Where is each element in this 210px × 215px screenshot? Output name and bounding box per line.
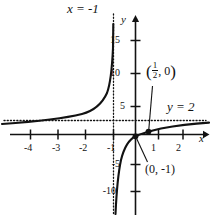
y-axis-arrowhead	[132, 15, 139, 22]
y-tick-label-10: 10	[104, 68, 120, 78]
y-tick-label-5: 5	[109, 101, 125, 111]
y-intercept-callout: (0, -1)	[145, 163, 175, 175]
x-tick-label-minus-3: -3	[52, 143, 60, 153]
x-tick-label-minus-1: -1	[107, 143, 115, 153]
vertical-asymptote-label: x = -1	[67, 2, 99, 15]
leader-line-x-intercept	[149, 86, 153, 130]
y-tick-label-15: 15	[104, 35, 120, 45]
y-tick-label-minus-10: -10	[100, 186, 116, 196]
one-half-fraction: 12	[152, 61, 159, 81]
y-axis-label: y	[121, 14, 126, 25]
x-tick-label-minus-2: -2	[79, 143, 87, 153]
x-intercept-callout: (12, 0)	[146, 62, 176, 82]
x-tick-label-minus-4: -4	[24, 143, 32, 153]
x-tick-label-1: 1	[151, 143, 156, 153]
x-tick-label-2: 2	[176, 143, 181, 153]
x-intercept-y-value: , 0	[158, 64, 170, 78]
y-tick-label-minus-5: -5	[104, 159, 120, 169]
point-x-intercept	[146, 129, 152, 135]
point-y-intercept	[133, 133, 139, 139]
figure-container: . x = -1 y = 2 y x 15 10 5 -5 -10 -4 -3 …	[0, 0, 210, 215]
fraction-numerator: 1	[152, 61, 159, 70]
leader-line-y-intercept	[137, 139, 148, 163]
curve-left-branch	[2, 24, 113, 124]
fraction-denominator: 2	[152, 70, 159, 80]
x-intercept-paren-close: )	[170, 62, 176, 81]
horizontal-asymptote-label: y = 2	[167, 100, 195, 113]
x-axis-label: x	[199, 133, 204, 144]
